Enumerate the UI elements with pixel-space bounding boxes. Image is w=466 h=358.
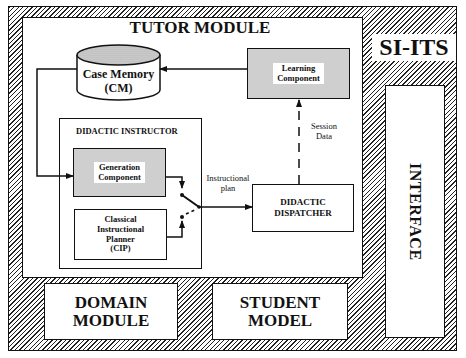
- case-memory: Case Memory (CM): [77, 66, 160, 98]
- learning-component: Learning Component: [247, 48, 350, 99]
- didactic-instructor-title: DIDACTIC INSTRUCTOR: [76, 126, 196, 138]
- didactic-dispatcher: DIDACTIC DISPATCHER: [252, 184, 354, 232]
- generation-component: Generation Component: [73, 148, 166, 197]
- session-data-label: Session Data: [304, 119, 344, 143]
- instructional-plan-label: Instructional plan: [203, 171, 253, 195]
- classical-instructional-planner: Classical Instructional Planner (CIP): [74, 209, 167, 260]
